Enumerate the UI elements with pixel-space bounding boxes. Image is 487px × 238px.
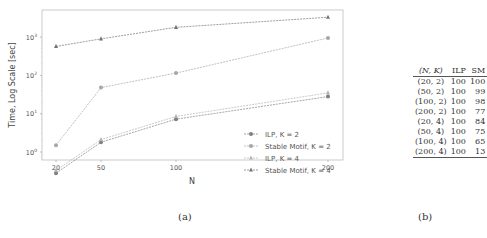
- y-axis-ticks: 100101102103: [26, 33, 42, 158]
- table-cell: (20, 4): [413, 117, 449, 127]
- table-cell: 100: [449, 87, 468, 97]
- table-cell: (20, 2): [413, 77, 449, 88]
- table-cell: 65: [468, 137, 487, 147]
- y-tick-label: 100: [26, 148, 37, 157]
- legend-label: ILP, K = 2: [265, 131, 299, 139]
- table-row: (100, 2)10098: [413, 97, 487, 107]
- table-cell: 98: [468, 97, 487, 107]
- table-cell: 13: [468, 147, 487, 158]
- y-tick-label: 101: [26, 109, 37, 118]
- table-header-cell: SM: [468, 66, 487, 77]
- table-cell: (200, 4): [413, 147, 449, 158]
- table-cell: 100: [449, 107, 468, 117]
- runtime-chart: 100101102103 2050100200 Time, Log Scale …: [0, 0, 360, 200]
- table-body: (20, 2)100100(50, 2)10099(100, 2)10098(2…: [413, 77, 487, 158]
- table-header-cell: (N, K): [413, 66, 449, 77]
- x-tick-label: 50: [97, 164, 105, 172]
- table-row: (200, 4)10013: [413, 147, 487, 158]
- table-cell: 100: [449, 117, 468, 127]
- table-row: (50, 4)10075: [413, 127, 487, 137]
- table-cell: (100, 2): [413, 97, 449, 107]
- results-table: (N, K)ILPSM (20, 2)100100(50, 2)10099(10…: [413, 66, 487, 158]
- legend-label: ILP, K = 4: [265, 155, 300, 163]
- legend-label: Stable Motif, K = 4: [265, 167, 331, 175]
- table-header-cell: ILP: [449, 66, 468, 77]
- y-tick-label: 102: [26, 71, 37, 80]
- table-header-row: (N, K)ILPSM: [413, 66, 487, 77]
- table-cell: 100: [468, 77, 487, 88]
- legend-label: Stable Motif, K = 2: [265, 143, 331, 151]
- table-row: (20, 4)10084: [413, 117, 487, 127]
- table-row: (50, 2)10099: [413, 87, 487, 97]
- caption-b: (b): [418, 211, 432, 222]
- y-tick-label: 103: [26, 33, 37, 42]
- x-tick-label: 100: [170, 164, 182, 172]
- table-cell: 99: [468, 87, 487, 97]
- table-cell: 100: [449, 147, 468, 158]
- x-axis-label: N: [189, 177, 195, 186]
- table-cell: 100: [449, 97, 468, 107]
- table-cell: (50, 2): [413, 87, 449, 97]
- table-row: (100, 4)10065: [413, 137, 487, 147]
- table-cell: (200, 2): [413, 107, 449, 117]
- table-cell: (100, 4): [413, 137, 449, 147]
- y-axis-label: Time, Log Scale [sec]: [8, 42, 17, 128]
- table-cell: 100: [449, 77, 468, 88]
- caption-a: (a): [178, 211, 192, 222]
- table-row: (20, 2)100100: [413, 77, 487, 88]
- table-cell: 77: [468, 107, 487, 117]
- table-row: (200, 2)10077: [413, 107, 487, 117]
- table-cell: (50, 4): [413, 127, 449, 137]
- legend-entry: Stable Motif, K = 4: [244, 167, 331, 175]
- table-cell: 75: [468, 127, 487, 137]
- table-cell: 84: [468, 117, 487, 127]
- table-cell: 100: [449, 137, 468, 147]
- table-cell: 100: [449, 127, 468, 137]
